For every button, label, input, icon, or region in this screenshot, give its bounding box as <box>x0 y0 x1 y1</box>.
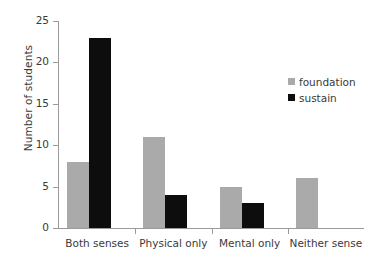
y-axis-tick-label: 15 <box>19 98 49 109</box>
x-axis-tick <box>288 229 289 234</box>
legend-swatch-icon-sustain <box>288 94 295 101</box>
bar-sustain-2 <box>242 203 264 228</box>
legend-swatch-icon-foundation <box>288 78 295 85</box>
y-axis-tick-label: 25 <box>19 15 49 26</box>
x-axis-category-label: Both senses <box>59 237 135 249</box>
y-axis-tick-label: 20 <box>19 56 49 67</box>
y-axis-tick <box>53 228 58 229</box>
y-axis-tick-label: 5 <box>19 181 49 192</box>
x-axis-category-label: Mental only <box>212 237 288 249</box>
bar-foundation-0 <box>67 162 89 228</box>
y-axis-tick <box>53 62 58 63</box>
bar-sustain-1 <box>165 195 187 228</box>
bars-layer <box>59 21 364 228</box>
legend: foundation sustain <box>288 74 356 106</box>
bar-chart: Number of students 0510152025 Both sense… <box>0 0 375 263</box>
y-axis-tick-label: 10 <box>19 139 49 150</box>
legend-item-sustain: sustain <box>288 90 356 105</box>
y-axis-tick <box>53 187 58 188</box>
y-axis-tick-label: 0 <box>19 222 49 233</box>
bar-sustain-0 <box>89 38 111 228</box>
y-axis-tick <box>53 104 58 105</box>
y-axis-tick <box>53 21 58 22</box>
x-axis-category-label: Physical only <box>135 237 211 249</box>
legend-label-sustain: sustain <box>299 92 337 104</box>
bar-foundation-3 <box>296 178 318 228</box>
legend-item-foundation: foundation <box>288 74 356 89</box>
x-axis-tick <box>135 229 136 234</box>
x-axis-tick <box>212 229 213 234</box>
y-axis-tick <box>53 145 58 146</box>
bar-foundation-2 <box>220 187 242 228</box>
bar-foundation-1 <box>143 137 165 228</box>
legend-label-foundation: foundation <box>299 76 356 88</box>
x-axis-category-label: Neither sense <box>288 237 364 249</box>
